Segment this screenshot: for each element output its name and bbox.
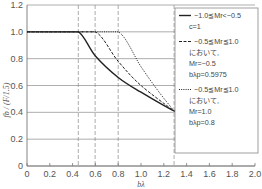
x-tick-label: 1.4	[180, 169, 193, 179]
x-tick-label: 1.6	[203, 169, 216, 179]
y-tick-label: 0.4	[10, 107, 23, 117]
y-tick-label: 1.0	[10, 27, 23, 37]
legend-label: において,	[189, 48, 219, 57]
legend-label: Mr=1.0	[189, 107, 212, 116]
x-tick-label: 0.8	[112, 169, 125, 179]
x-tick-label: 0.4	[66, 169, 79, 179]
legend-label: bλp=0.8	[189, 118, 215, 127]
x-tick-label: 1.2	[158, 169, 171, 179]
legend-label: −0.5≦Mr≦1.0	[194, 85, 239, 94]
legend-label: Mr=−0.5	[189, 59, 216, 68]
x-tick-label: 0.6	[89, 169, 102, 179]
legend-label: bλp=0.5975	[189, 70, 227, 79]
y-tick-label: 0.8	[10, 54, 23, 64]
legend-label: において,	[189, 96, 219, 105]
legend: −1.0≦Mr<−0.5c=1−0.5≦Mr≦1.0において,Mr=−0.5bλ…	[175, 8, 258, 153]
x-tick-label: 2.0	[249, 169, 262, 179]
legend-label: −0.5≦Mr≦1.0	[194, 37, 239, 46]
y-tick-label: 1.2	[10, 0, 23, 10]
x-tick-label: 1.8	[226, 169, 239, 179]
y-axis-label: fb / (F/1.5)	[2, 82, 11, 117]
y-tick-label: 0.6	[10, 81, 23, 91]
y-tick-label: 0	[18, 161, 23, 171]
x-tick-label: 0.2	[44, 169, 57, 179]
y-tick-label: 0.2	[10, 134, 23, 144]
x-axis-label: bλ	[137, 180, 145, 189]
legend-box	[175, 8, 258, 153]
legend-label: −1.0≦Mr<−0.5	[194, 11, 241, 20]
x-tick-label: 1.0	[135, 169, 148, 179]
legend-label: c=1	[189, 22, 201, 31]
x-tick-label: 0	[24, 169, 29, 179]
chart: 00.20.40.60.81.01.200.20.40.60.81.01.21.…	[0, 0, 262, 189]
